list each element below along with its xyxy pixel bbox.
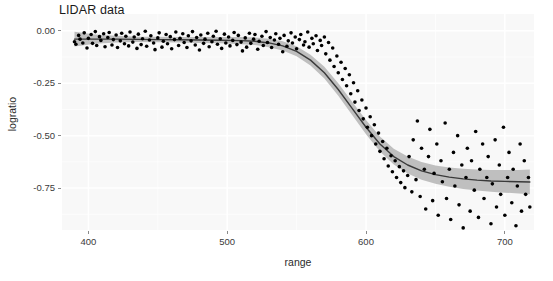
data-point (107, 31, 111, 35)
y-tick-mark (58, 83, 61, 84)
data-point (470, 159, 474, 163)
data-point (210, 40, 214, 44)
data-point (295, 47, 299, 51)
data-point (385, 146, 389, 150)
data-point (227, 35, 231, 39)
data-point (87, 37, 91, 41)
data-point (423, 167, 427, 171)
data-point (370, 134, 374, 138)
x-tick-label: 600 (346, 236, 386, 247)
data-point (332, 65, 336, 69)
data-point (410, 190, 414, 194)
data-point (391, 170, 395, 174)
data-point (214, 29, 218, 33)
data-point (491, 182, 495, 186)
y-tick-label: -0.50 (21, 130, 55, 141)
data-point (320, 44, 324, 48)
data-point (135, 47, 139, 51)
data-point (195, 36, 199, 40)
data-point (382, 157, 386, 161)
data-point (499, 193, 503, 197)
data-point (448, 167, 452, 171)
data-point (199, 33, 203, 37)
data-point (507, 151, 511, 155)
data-point (374, 142, 378, 146)
data-point (524, 193, 528, 197)
data-point (85, 46, 89, 50)
data-point (478, 167, 482, 171)
plot-panel (62, 14, 534, 230)
data-point (441, 180, 445, 184)
data-point (432, 172, 436, 176)
data-point (518, 142, 522, 146)
data-point (328, 58, 332, 62)
data-point (341, 78, 345, 82)
data-point (231, 39, 235, 43)
data-point (145, 45, 149, 49)
data-point (261, 44, 265, 48)
data-point (193, 43, 197, 47)
data-point (273, 38, 277, 42)
data-point (143, 29, 147, 33)
data-point (228, 44, 232, 48)
data-point (528, 205, 532, 209)
x-tick-mark (88, 231, 89, 234)
data-point (403, 186, 407, 190)
data-point (102, 32, 106, 36)
data-point (406, 174, 410, 178)
x-tick-label: 700 (485, 236, 525, 247)
data-point (110, 43, 114, 47)
data-point (291, 41, 295, 45)
data-point (152, 41, 156, 45)
data-point (353, 100, 357, 104)
data-point (256, 47, 260, 51)
data-point (148, 38, 152, 42)
data-point (427, 155, 431, 159)
data-point (349, 92, 353, 96)
data-point (274, 32, 278, 36)
data-point (239, 40, 243, 44)
data-point (124, 34, 128, 38)
data-point (378, 150, 382, 154)
data-point (445, 197, 449, 201)
data-point (185, 46, 189, 50)
data-point (216, 42, 220, 46)
data-point (449, 218, 453, 222)
x-tick-mark (227, 231, 228, 234)
data-point (497, 163, 501, 167)
data-point (461, 226, 465, 230)
data-point (182, 41, 186, 45)
data-point (237, 34, 241, 38)
data-point (141, 37, 145, 41)
data-point (153, 48, 157, 52)
data-point (418, 195, 422, 199)
data-point (473, 188, 477, 192)
x-tick-mark (504, 231, 505, 234)
data-point (168, 35, 172, 39)
data-point (489, 222, 493, 226)
data-point (114, 33, 118, 37)
data-point (116, 46, 120, 50)
data-point (345, 84, 349, 88)
data-point (506, 176, 510, 180)
data-point (443, 121, 447, 125)
data-point (235, 43, 239, 47)
data-point (241, 49, 245, 53)
data-point (453, 184, 457, 188)
data-point (298, 38, 302, 42)
data-point (514, 224, 518, 228)
data-point (395, 176, 399, 180)
x-tick-mark (366, 231, 367, 234)
data-point (435, 142, 439, 146)
data-point (416, 119, 420, 123)
data-point (268, 36, 272, 40)
data-point (282, 34, 286, 38)
data-point (74, 42, 78, 46)
data-point (270, 46, 274, 50)
data-point (232, 31, 236, 35)
data-point (414, 178, 418, 182)
data-point (339, 60, 343, 64)
data-point (99, 39, 103, 43)
data-point (364, 106, 368, 110)
data-point (457, 203, 461, 207)
